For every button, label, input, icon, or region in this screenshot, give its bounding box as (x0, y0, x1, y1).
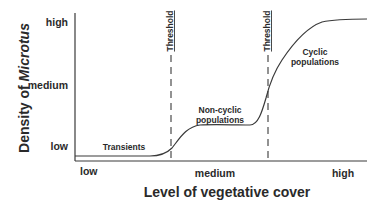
y-tick-high: high (46, 16, 68, 28)
region-label-cyclic-line1: Cyclic (302, 47, 327, 57)
threshold-label-2: Threshold (262, 10, 272, 51)
population-density-diagram: high medium low low medium high Threshol… (0, 0, 381, 209)
x-tick-low: low (80, 165, 98, 177)
y-axis-title-prefix: Density of (16, 81, 32, 153)
y-tick-low: low (51, 140, 69, 152)
density-curve (75, 19, 367, 156)
region-label-noncyclic-line2: populations (196, 115, 244, 125)
x-tick-medium: medium (195, 167, 235, 179)
y-tick-medium: medium (28, 79, 68, 91)
region-label-cyclic-line2: populations (291, 57, 339, 67)
region-label-transients: Transients (103, 142, 146, 152)
y-axis-title: Density of Microtus (16, 23, 32, 153)
x-axis-title: Level of vegetative cover (144, 184, 311, 200)
region-label-noncyclic-line1: Non-cyclic (199, 105, 242, 115)
threshold-label-1: Threshold (165, 10, 175, 51)
x-tick-high: high (332, 167, 354, 179)
y-axis-title-genus: Microtus (16, 23, 32, 82)
